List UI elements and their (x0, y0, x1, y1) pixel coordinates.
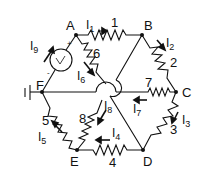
arrow-I9-head (49, 47, 54, 53)
resistor-label-1: 1 (111, 15, 118, 30)
resistor-label-5: 5 (42, 113, 49, 128)
current-label-I7: I7 (133, 102, 141, 118)
arrow-I8-head (98, 118, 103, 124)
node-label-F: F (36, 78, 44, 93)
node-label-E: E (70, 154, 79, 169)
resistor-label-3: 3 (170, 122, 177, 137)
resistor-4 (77, 145, 143, 155)
resistor-label-4: 4 (109, 155, 116, 170)
arrow-I6-head (88, 69, 94, 75)
current-label-I3: I3 (182, 113, 190, 129)
current-label-I8: I8 (104, 99, 112, 115)
current-label-I1: I1 (86, 18, 94, 34)
node-label-A: A (66, 18, 75, 33)
source-plus-marker: + (67, 39, 72, 48)
resistor-label-6: 6 (93, 46, 100, 61)
node-label-C: C (182, 85, 191, 100)
node-C (174, 90, 178, 94)
current-label-I2: I2 (166, 36, 174, 52)
current-label-I4: I4 (112, 126, 120, 142)
arrow-I2-head (159, 44, 165, 50)
source-v-glyph (56, 56, 65, 64)
node-E (75, 148, 79, 152)
current-label-I9: I9 (30, 39, 38, 55)
circuit-diagram: A B C D E F 1 2 3 4 5 6 7 8 I1 I2 I3 I4 … (0, 0, 208, 178)
resistor-label-7: 7 (145, 75, 152, 90)
current-label-I6: I6 (77, 69, 85, 85)
node-B (140, 33, 144, 37)
current-label-I5: I5 (38, 130, 46, 146)
node-A (74, 33, 78, 37)
resistor-label-2: 2 (170, 55, 177, 70)
node-D (141, 148, 145, 152)
node-label-D: D (143, 154, 152, 169)
source-minus-marker: - (47, 68, 50, 77)
node-label-B: B (144, 18, 153, 33)
resistor-label-8: 8 (79, 111, 86, 126)
arrow-I4-head (96, 137, 101, 143)
